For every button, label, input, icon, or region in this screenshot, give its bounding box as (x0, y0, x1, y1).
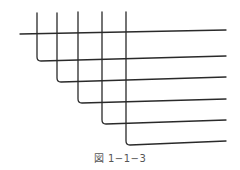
bent-line-4 (102, 12, 226, 124)
horizontal-line (20, 30, 226, 34)
figure-caption: 図 1−1−3 (0, 150, 240, 165)
bent-line-2 (57, 13, 226, 82)
line-diagram (0, 0, 240, 170)
bent-line-1 (37, 13, 226, 61)
